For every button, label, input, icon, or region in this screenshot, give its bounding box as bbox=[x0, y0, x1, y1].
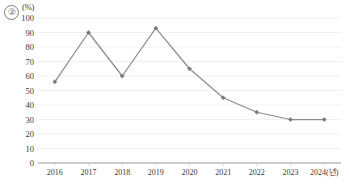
y-axis-tick-label: 30 bbox=[26, 115, 35, 125]
chart-figure: ② (%) 0102030405060708090100 20162017201… bbox=[0, 0, 349, 186]
x-axis-tick-labels: 201620172018201920202021202220232024(년) bbox=[47, 167, 339, 177]
data-point-markers bbox=[53, 26, 327, 122]
data-point-marker bbox=[255, 110, 259, 114]
y-axis-tick-label: 50 bbox=[26, 86, 35, 96]
y-axis-tick-label: 10 bbox=[26, 144, 35, 154]
y-axis-tick-label: 20 bbox=[26, 129, 35, 139]
data-series-line bbox=[55, 28, 324, 119]
x-axis-tick-label: 2021 bbox=[215, 168, 231, 177]
y-axis-tick-label: 90 bbox=[26, 28, 35, 38]
y-axis-tick-label: 100 bbox=[21, 13, 34, 23]
line-chart-plot: 0102030405060708090100 20162017201820192… bbox=[0, 0, 349, 186]
x-axis-tick-label: 2019 bbox=[148, 168, 164, 177]
x-axis-tick-label: 2024(년) bbox=[310, 167, 339, 177]
x-axis-tick-label: 2020 bbox=[182, 168, 198, 177]
y-axis-tick-label: 80 bbox=[26, 42, 35, 52]
x-axis-tick-label: 2022 bbox=[249, 168, 265, 177]
y-axis-tick-label: 70 bbox=[26, 57, 35, 67]
data-point-marker bbox=[288, 117, 292, 121]
y-axis-tick-label: 0 bbox=[30, 158, 34, 168]
x-axis-tick-label: 2018 bbox=[114, 168, 130, 177]
y-axis-tick-labels: 0102030405060708090100 bbox=[21, 13, 34, 168]
x-axis-tick-label: 2016 bbox=[47, 168, 63, 177]
x-axis-tick-label: 2017 bbox=[81, 168, 97, 177]
x-axis-tick-label: 2023 bbox=[283, 168, 299, 177]
y-axis-tick-label: 60 bbox=[26, 71, 35, 81]
data-point-marker bbox=[322, 117, 326, 121]
y-axis-tick-label: 40 bbox=[26, 100, 35, 110]
